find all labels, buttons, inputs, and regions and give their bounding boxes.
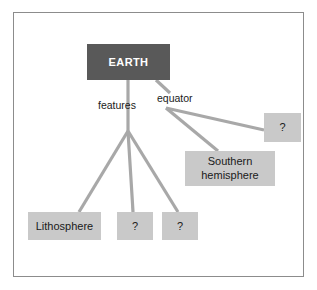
edge-features-to-lithosphere bbox=[79, 131, 128, 212]
edge-features-to-unknown-2 bbox=[128, 131, 178, 212]
node-earth[interactable]: EARTH bbox=[87, 44, 170, 80]
diagram-canvas: EARTH ? Southern hemisphere Lithosphere … bbox=[0, 0, 317, 290]
node-southern-hemisphere[interactable]: Southern hemisphere bbox=[185, 151, 275, 186]
node-lithosphere-label: Lithosphere bbox=[28, 220, 101, 233]
node-feature-unknown-1-label: ? bbox=[117, 220, 153, 233]
node-right-unknown[interactable]: ? bbox=[264, 113, 301, 142]
edge-label-equator: equator bbox=[157, 92, 193, 104]
node-earth-label: EARTH bbox=[87, 56, 170, 69]
node-feature-unknown-2[interactable]: ? bbox=[162, 212, 198, 240]
node-feature-unknown-2-label: ? bbox=[162, 220, 198, 233]
node-lithosphere[interactable]: Lithosphere bbox=[28, 212, 101, 240]
edge-features-to-unknown-1 bbox=[128, 131, 133, 212]
node-feature-unknown-1[interactable]: ? bbox=[117, 212, 153, 240]
node-right-unknown-label: ? bbox=[264, 121, 301, 134]
node-southern-hemisphere-label: Southern hemisphere bbox=[185, 155, 275, 183]
node-southern-hemisphere-line1: Southern bbox=[208, 155, 253, 167]
node-southern-hemisphere-line2: hemisphere bbox=[201, 169, 258, 181]
edge-label-features: features bbox=[98, 99, 136, 111]
